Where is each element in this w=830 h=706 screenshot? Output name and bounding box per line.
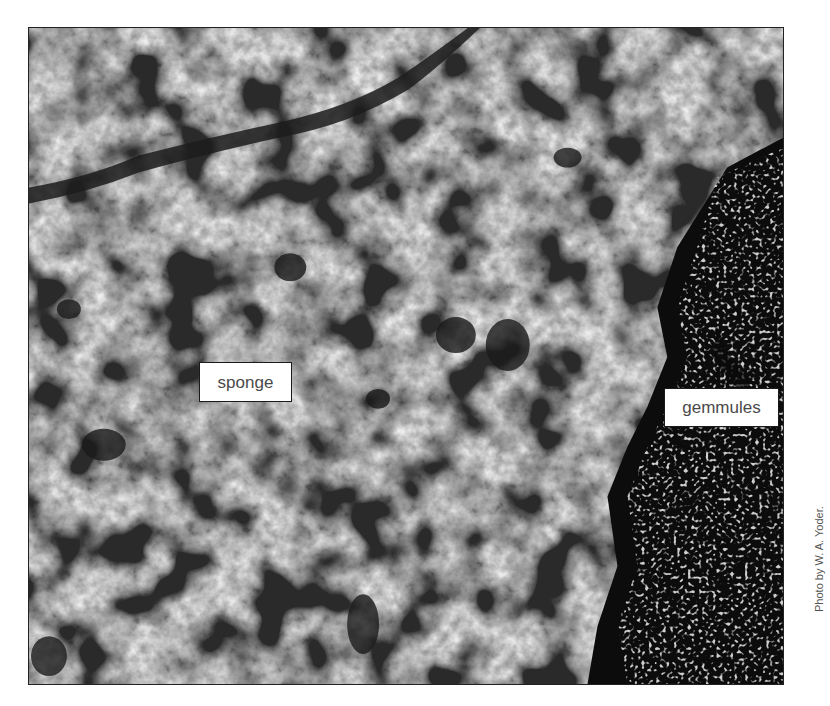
photo-credit: Photo by W. A. Yoder. [813, 506, 825, 612]
sponge-label: sponge [199, 362, 292, 402]
sponge-photograph [28, 27, 784, 685]
gemmules-label: gemmules [664, 388, 779, 427]
photo-texture [29, 28, 783, 684]
gemmules-label-text: gemmules [682, 399, 760, 416]
sponge-label-text: sponge [218, 374, 274, 391]
